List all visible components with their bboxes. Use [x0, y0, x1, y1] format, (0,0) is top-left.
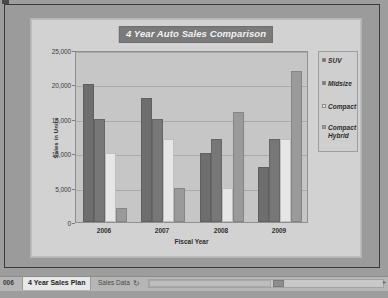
legend-item-midsize[interactable]: Midsize	[322, 80, 355, 88]
y-axis: 05,00010,00015,00020,00025,000	[32, 51, 75, 223]
legend-item-compact[interactable]: Compact	[322, 103, 355, 111]
legend-item-suv[interactable]: SUV	[322, 57, 355, 65]
y-axis-tick-label: 25,000	[52, 48, 71, 55]
bar-compact-2008[interactable]	[222, 188, 233, 222]
gridline	[76, 121, 307, 122]
document-window-frame: 4 Year Auto Sales Comparison Sales in Un…	[4, 4, 380, 268]
bar-compact-hybrid-2007[interactable]	[174, 188, 185, 222]
scrollbar-marker[interactable]	[273, 280, 284, 287]
legend-label: Compact	[328, 103, 356, 111]
scroll-right-icon[interactable]: ▸	[383, 278, 386, 285]
x-axis-tick-label: 2009	[272, 227, 286, 234]
sheet-tab-sales-data[interactable]: Sales Data	[94, 278, 134, 286]
bar-compact-hybrid-2009[interactable]	[291, 71, 302, 222]
sheet-tab-bar: 006 4 Year Sales Plan Sales Data ↻ ▸	[0, 276, 388, 291]
y-axis-tick-label: 10,000	[52, 151, 71, 158]
x-axis-tick-label: 2008	[214, 227, 228, 234]
x-axis-tick-label: 2006	[97, 227, 111, 234]
gridline	[76, 86, 307, 87]
chart-legend[interactable]: SUVMidsizeCompactCompact Hybrid	[318, 51, 358, 152]
sheet-tab-4-year-sales-plan[interactable]: 4 Year Sales Plan	[22, 277, 91, 290]
bar-midsize-2009[interactable]	[269, 139, 280, 222]
legend-item-compact-hybrid[interactable]: Compact Hybrid	[322, 124, 355, 140]
bar-suv-2009[interactable]	[258, 167, 269, 222]
y-axis-tick-label: 0	[67, 220, 71, 227]
bar-compact-hybrid-2006[interactable]	[116, 208, 127, 222]
bar-midsize-2006[interactable]	[94, 119, 105, 222]
bar-suv-2006[interactable]	[83, 84, 94, 222]
legend-swatch-icon	[322, 104, 326, 108]
bar-suv-2007[interactable]	[141, 98, 152, 222]
x-axis-title: Fiscal Year	[75, 238, 308, 245]
plot-area	[75, 51, 308, 223]
spreadsheet-chart-window: 4 Year Auto Sales Comparison Sales in Un…	[0, 0, 388, 298]
x-axis-tick-label: 2007	[155, 227, 169, 234]
bar-compact-2006[interactable]	[105, 153, 116, 222]
sheet-tab-partial[interactable]: 006	[3, 279, 14, 286]
gridline	[76, 52, 307, 53]
legend-swatch-icon	[322, 125, 326, 129]
legend-label: Compact Hybrid	[328, 124, 356, 140]
y-axis-tick-label: 15,000	[52, 117, 71, 124]
bar-suv-2008[interactable]	[200, 153, 211, 222]
x-axis: 2006200720082009	[75, 224, 308, 238]
bar-midsize-2007[interactable]	[152, 119, 163, 222]
y-axis-tick-label: 5,000	[55, 186, 71, 193]
scrollbar-thumb[interactable]	[149, 280, 271, 287]
chart-title: 4 Year Auto Sales Comparison	[119, 26, 273, 43]
new-sheet-icon[interactable]: ↻	[133, 279, 140, 288]
y-axis-tick-label: 20,000	[52, 82, 71, 89]
legend-swatch-icon	[322, 58, 326, 62]
legend-swatch-icon	[322, 81, 326, 85]
chart-object[interactable]: 4 Year Auto Sales Comparison Sales in Un…	[31, 19, 361, 257]
horizontal-scrollbar[interactable]	[148, 279, 384, 288]
legend-label: Midsize	[328, 80, 352, 88]
bar-compact-2007[interactable]	[163, 139, 174, 222]
legend-label: SUV	[328, 57, 342, 65]
bar-midsize-2008[interactable]	[211, 139, 222, 222]
plot-inner	[76, 52, 307, 222]
bar-compact-hybrid-2008[interactable]	[233, 112, 244, 222]
bar-compact-2009[interactable]	[280, 139, 291, 222]
